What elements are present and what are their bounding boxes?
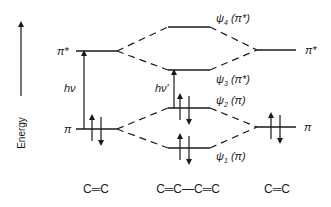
hv-prime-label: hν′ [155,82,170,94]
energy-axis-label: Energy [16,117,27,149]
energy-axis: Energy [16,24,27,149]
psi4-label: ψ4(π*) [216,12,250,26]
left-ethylene-levels: π* π hν [57,45,117,143]
left-pi-star-label: π* [57,45,69,57]
molecule-labels: C═C C═C—C═C C═C [83,182,290,196]
butadiene-levels: ψ4(π*) ψ3(π*) ψ2(π) ψ1(π) hν′ [155,12,250,164]
hv-label: hν [64,82,76,94]
right-pi-label: π [304,121,312,133]
psi1-label: ψ1(π) [216,150,246,164]
mo-diagram: Energy π* π hν ψ4(π*) ψ3(π*) [0,0,331,207]
center-molecule-label: C═C—C═C [156,182,220,196]
right-molecule-label: C═C [264,182,290,196]
right-pi-star-label: π* [305,44,317,56]
psi3-label: ψ3(π*) [216,73,250,87]
left-pi-label: π [64,123,72,135]
right-ethylene-levels: π* π [257,44,317,141]
psi2-label: ψ2(π) [216,94,246,108]
correlation-lines [117,27,257,148]
left-molecule-label: C═C [83,182,109,196]
